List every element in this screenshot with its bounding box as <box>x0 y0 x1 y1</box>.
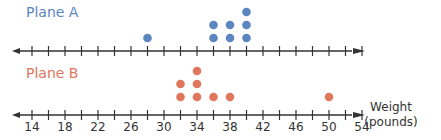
plane-a-number-line <box>12 46 365 56</box>
data-dot <box>209 21 218 30</box>
tick-label: 46 <box>288 120 303 134</box>
tick-label: 30 <box>156 120 171 134</box>
data-dot <box>193 93 202 102</box>
tick-label: 18 <box>57 120 72 134</box>
data-dot <box>209 34 218 43</box>
data-dot <box>193 67 202 76</box>
tick-label: 42 <box>255 120 270 134</box>
tick-label: 34 <box>189 120 204 134</box>
data-dot <box>143 34 152 43</box>
left-arrow-icon <box>12 112 20 118</box>
tick-label: 50 <box>321 120 336 134</box>
plane-b-label: Plane B <box>26 65 78 81</box>
right-arrow-icon <box>353 112 365 118</box>
data-dot <box>242 34 251 43</box>
data-dot <box>209 93 218 102</box>
data-dot <box>242 8 251 17</box>
x-axis-title-line2: (pounds) <box>364 115 417 129</box>
data-dot <box>193 80 202 89</box>
plane-b-dots <box>176 67 333 102</box>
tick-label: 26 <box>123 120 138 134</box>
data-dot <box>176 93 185 102</box>
data-dot <box>325 93 334 102</box>
plane-b-number-line <box>12 110 365 120</box>
tick-label: 22 <box>90 120 105 134</box>
plane-a-dots <box>143 8 251 43</box>
right-arrow-icon <box>353 48 365 54</box>
data-dot <box>226 21 235 30</box>
data-dot <box>242 21 251 30</box>
plane-a-label: Plane A <box>26 4 79 20</box>
data-dot <box>226 93 235 102</box>
left-arrow-icon <box>12 48 20 54</box>
dot-plot-chart: Plane A Plane B 1418222630343842465054 W… <box>0 0 441 140</box>
data-dot <box>176 80 185 89</box>
data-dot <box>226 34 235 43</box>
tick-labels: 1418222630343842465054 <box>24 120 369 134</box>
x-axis-title-line1: Weight <box>370 100 412 114</box>
tick-label: 14 <box>24 120 39 134</box>
tick-label: 38 <box>222 120 237 134</box>
